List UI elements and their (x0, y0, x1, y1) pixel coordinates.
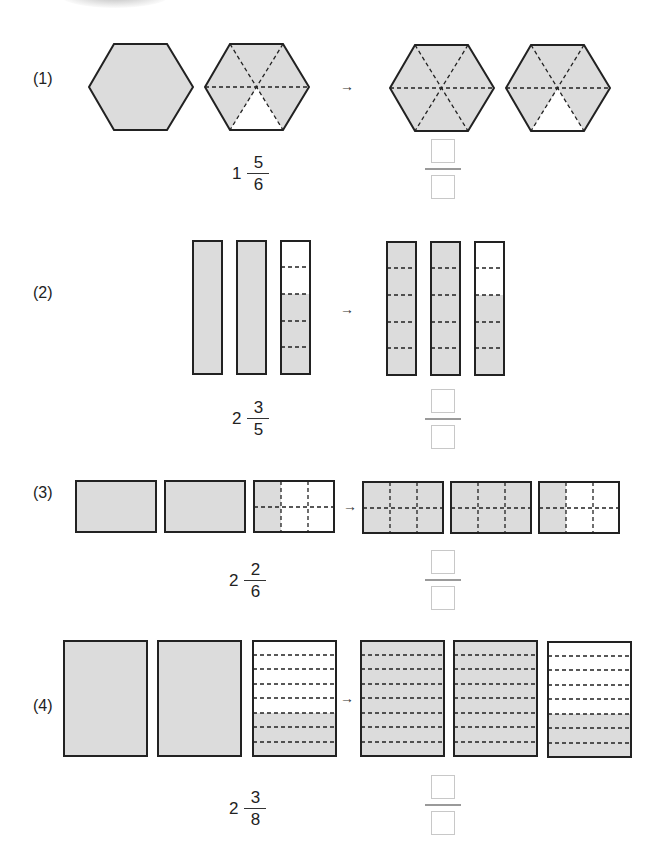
numerator: 3 (254, 398, 263, 417)
answer-denominator-box[interactable] (431, 425, 455, 449)
problem-2-answer-fraction (425, 389, 461, 449)
problem-1-partial-hexagon (204, 43, 312, 131)
fraction-bar (247, 418, 269, 419)
problem-3-answer-fraction (425, 550, 461, 610)
problem-3-label: (3) (33, 484, 53, 502)
fraction-bar (425, 804, 461, 806)
denominator: 6 (251, 582, 260, 601)
problem-2-fifths-bar-3 (474, 241, 506, 377)
problem-4-arrow: → (340, 690, 354, 706)
fraction-bar (425, 168, 461, 170)
problem-4-partial-rect (252, 640, 338, 758)
problem-3-whole-rect-2 (164, 480, 247, 534)
denominator: 8 (251, 810, 260, 829)
answer-numerator-box[interactable] (431, 775, 455, 799)
fraction-bar (247, 173, 269, 174)
problem-3-whole-rect-1 (75, 480, 158, 534)
problem-2-label: (2) (33, 284, 53, 302)
answer-denominator-box[interactable] (431, 175, 455, 199)
problem-4-label: (4) (33, 697, 53, 715)
problem-1-sixths-hexagon-full (389, 44, 497, 132)
fraction-bar (425, 579, 461, 581)
problem-4-eighths-rect-2 (453, 640, 539, 758)
problem-3-mixed-number: 2 2 6 (229, 560, 266, 601)
problem-4-whole-rect-1 (63, 640, 149, 758)
problem-1-sixths-hexagon-partial (505, 44, 613, 132)
problem-2-fifths-bar-1 (386, 241, 418, 377)
problem-2-whole-bar-2 (236, 240, 268, 376)
fraction-bar (425, 418, 461, 420)
numerator: 2 (251, 560, 260, 579)
answer-denominator-box[interactable] (431, 586, 455, 610)
page-curl-shadow (60, 0, 170, 8)
problem-3-partial-rect (253, 480, 336, 534)
fraction: 3 5 (247, 398, 269, 439)
problem-3-sixths-rect-3 (538, 481, 621, 535)
problem-2-partial-bar (280, 240, 312, 376)
whole-part: 2 (229, 799, 238, 819)
problem-1-answer-fraction (425, 139, 461, 199)
fraction-bar (244, 808, 266, 809)
denominator: 5 (254, 420, 263, 439)
problem-2-whole-bar-1 (192, 240, 224, 376)
answer-numerator-box[interactable] (431, 139, 455, 163)
problem-1-arrow: → (340, 78, 354, 94)
problem-3-sixths-rect-2 (450, 481, 533, 535)
whole-part: 2 (232, 409, 241, 429)
problem-3-sixths-rect-1 (362, 481, 445, 535)
denominator: 6 (254, 175, 263, 194)
problem-2-arrow: → (340, 301, 354, 317)
problem-3-arrow: → (343, 498, 357, 514)
problem-2-mixed-number: 2 3 5 (232, 398, 269, 439)
problem-4-mixed-number: 2 3 8 (229, 788, 266, 829)
answer-numerator-box[interactable] (431, 389, 455, 413)
answer-denominator-box[interactable] (431, 811, 455, 835)
whole-part: 1 (232, 164, 241, 184)
fraction: 5 6 (247, 153, 269, 194)
problem-1-whole-hexagon (88, 43, 196, 131)
answer-numerator-box[interactable] (431, 550, 455, 574)
problem-1-label: (1) (33, 70, 53, 88)
problem-4-eighths-rect-3 (547, 641, 633, 759)
numerator: 3 (251, 788, 260, 807)
problem-2-fifths-bar-2 (430, 241, 462, 377)
fraction-bar (244, 580, 266, 581)
whole-part: 2 (229, 571, 238, 591)
numerator: 5 (254, 153, 263, 172)
fraction: 3 8 (244, 788, 266, 829)
problem-4-answer-fraction (425, 775, 461, 835)
fraction: 2 6 (244, 560, 266, 601)
problem-4-eighths-rect-1 (360, 640, 446, 758)
problem-1-mixed-number: 1 5 6 (232, 153, 269, 194)
problem-4-whole-rect-2 (157, 640, 243, 758)
